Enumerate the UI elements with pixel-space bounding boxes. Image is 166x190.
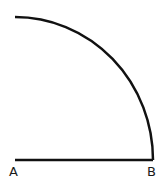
quarter-arc [15,17,153,160]
point-a-label: A [9,165,18,178]
diagram-canvas [0,0,166,190]
point-b-label: B [147,165,156,178]
